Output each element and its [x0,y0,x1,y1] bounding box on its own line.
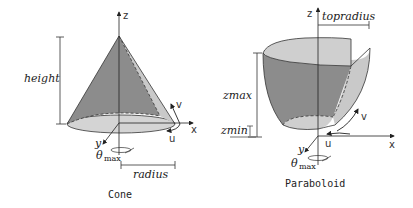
cone-height-label: height [24,72,60,85]
cone-title: Cone [108,189,132,200]
cone-radius-label: radius [133,168,168,181]
paraboloid-figure: z x y v u θ max topradius zmax [220,8,395,189]
cone-figure: z x y v u θ max height radius Co [24,10,197,200]
paraboloid-u-arrow [327,133,350,134]
paraboloid-y-axis [305,136,318,152]
cone-v-label: v [176,99,182,110]
cone-theta-swirl [111,148,131,153]
paraboloid-topradius-label: topradius [322,10,376,23]
paraboloid-z-label: z [307,8,312,19]
paraboloid-theta-label: θ [291,157,298,170]
cone-u-label: u [169,133,175,144]
paraboloid-zmin-label: zmin [220,124,248,137]
paraboloid-v-label: v [361,111,367,122]
paraboloid-theta-sub: max [299,162,316,171]
diagram-canvas: z x y v u θ max height radius Co [0,0,413,208]
paraboloid-title: Paraboloid [285,178,345,189]
cone-theta-label: θ [96,149,103,162]
paraboloid-y-label: y [297,143,305,156]
paraboloid-x-label: x [389,139,395,150]
cone-z-label: z [123,10,128,21]
cone-theta-sub: max [104,154,121,163]
paraboloid-zmax-label: zmax [222,89,253,102]
paraboloid-u-label: u [325,138,331,149]
cone-x-label: x [191,124,197,135]
